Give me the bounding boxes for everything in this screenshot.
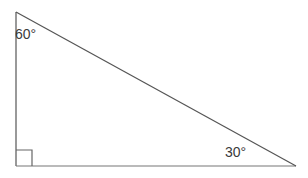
right-angle-marker-icon: [16, 150, 32, 166]
triangle-figure: 60° 30°: [0, 0, 308, 178]
angle-label-base-right: 30°: [225, 145, 246, 159]
triangle-hypotenuse: [16, 12, 296, 166]
triangle-drawing: [0, 0, 308, 178]
angle-label-apex: 60°: [15, 27, 36, 41]
